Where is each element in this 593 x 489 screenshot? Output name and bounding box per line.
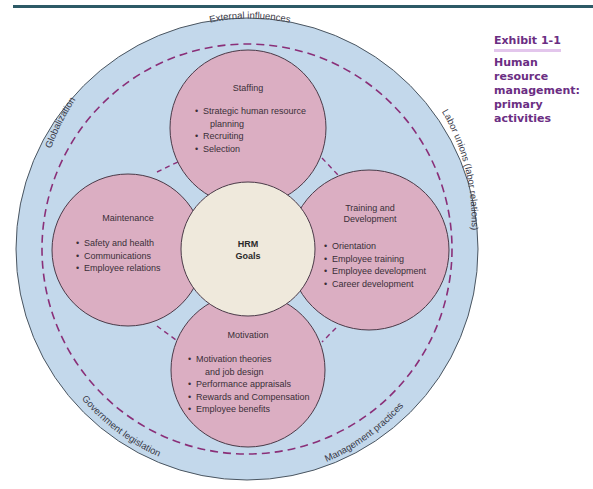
exhibit-header: Exhibit 1-1 Human resource management: p…: [494, 29, 593, 126]
motivation-list: Motivation theories and job design Perfo…: [188, 353, 338, 416]
hrm-line: HRM: [218, 238, 278, 250]
list-item: Employee benefits: [188, 403, 338, 416]
staffing-title: Staffing: [198, 83, 298, 94]
maintenance-title: Maintenance: [78, 213, 178, 224]
list-item: and job design: [188, 366, 338, 379]
list-item: Employee relations: [76, 262, 196, 275]
exhibit-title: Human resource management: primary activ…: [494, 56, 593, 126]
training-title-line1: Training and: [320, 203, 420, 214]
list-item: Orientation: [324, 240, 454, 253]
list-item: Career development: [324, 278, 454, 291]
training-title-line2: Development: [320, 214, 420, 225]
list-item: planning: [195, 118, 325, 131]
list-item: Communications: [76, 250, 196, 263]
list-item: Strategic human resource: [195, 105, 325, 118]
staffing-list: Strategic human resource planning Recrui…: [195, 105, 325, 155]
list-item: Selection: [195, 143, 325, 156]
list-item: Recruiting: [195, 130, 325, 143]
motivation-title: Motivation: [198, 330, 298, 341]
list-item: Rewards and Compensation: [188, 391, 338, 404]
maintenance-list: Safety and health Communications Employe…: [76, 237, 196, 275]
list-item: Safety and health: [76, 237, 196, 250]
hrm-goals-label: HRM Goals: [218, 238, 278, 262]
goals-line: Goals: [218, 250, 278, 262]
list-item: Employee development: [324, 265, 454, 278]
list-item: Performance appraisals: [188, 378, 338, 391]
training-title: Training and Development: [320, 203, 420, 225]
list-item: Employee training: [324, 253, 454, 266]
list-item: Motivation theories: [188, 353, 338, 366]
exhibit-number: Exhibit 1-1: [494, 34, 561, 52]
training-list: Orientation Employee training Employee d…: [324, 240, 454, 290]
